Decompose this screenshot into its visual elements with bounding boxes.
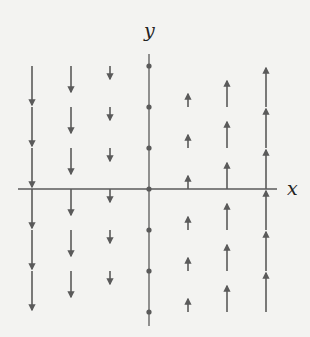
zero-vector-dot (146, 268, 151, 273)
zero-vector-dot (146, 145, 151, 150)
zero-vector-dot (146, 309, 151, 314)
zero-vector-dot (146, 186, 151, 191)
zero-vector-dot (146, 227, 151, 232)
y-axis-label: y (143, 19, 155, 41)
x-axis-label: x (287, 177, 298, 199)
vector-field-diagram: y x (0, 0, 310, 337)
zero-vector-dot (146, 63, 151, 68)
zero-vector-dot (146, 104, 151, 109)
